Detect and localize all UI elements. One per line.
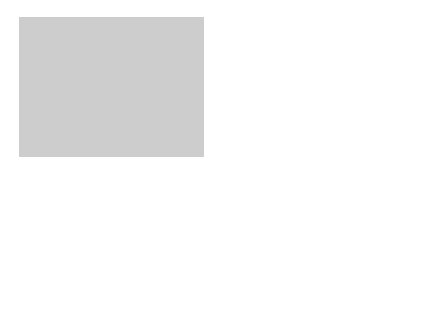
figure-full [0, 0, 444, 312]
